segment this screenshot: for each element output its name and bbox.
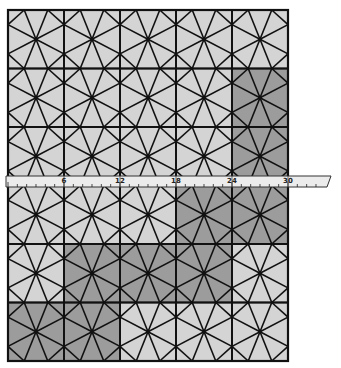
tiling-figure: 612182430 [0, 0, 341, 368]
ruler[interactable]: 612182430 [6, 176, 331, 187]
